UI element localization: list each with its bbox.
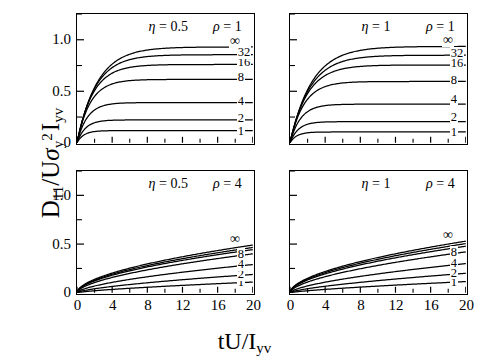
panel-top-left-curve-label-2: 2 [237,112,245,125]
panel-top-right-curve-label-inf: ∞ [442,33,454,47]
panel-bottom-left-curves [77,245,253,293]
panel-top-right-curves [290,46,466,142]
panel-bottom-right-xtick-label-1: 4 [314,298,338,313]
panel-top-right: η = 1ρ = 112481632∞ [289,13,468,145]
curve-4 [290,104,466,143]
panel-bottom-left-xtick-label-2: 8 [136,298,160,313]
panel-bottom-left-rho-label: ρ = 4 [213,176,242,192]
panel-bottom-left-xtick-label-0: 0 [66,298,90,313]
curve-32 [290,244,466,293]
panel-bottom-left: η = 0.5ρ = 41248∞ [76,170,255,295]
panel-top-right-eta-label: η = 1 [362,19,391,35]
panel-bottom-right-eta-label: η = 1 [362,176,391,192]
panel-top-left-ytick-label-0: 0 [35,135,71,150]
panel-top-left-curve-label-4: 4 [237,95,245,108]
panel-top-left-curve-label-8: 8 [237,71,245,84]
panel-bottom-right-xtick-label-5: 20 [454,298,478,313]
panel-top-right-curve-label-8: 8 [450,74,458,87]
curve-8 [290,81,466,142]
panel-bottom-left-xtick-label-1: 4 [101,298,125,313]
panel-bottom-right-xtick-label-4: 16 [419,298,443,313]
curve-inf [77,47,253,143]
panel-bottom-right-xtick-label-2: 8 [349,298,373,313]
panel-bottom-right-curves [290,241,466,293]
panel-bottom-left-eta-label: η = 0.5 [149,176,188,192]
panel-bottom-left-xtick-label-3: 12 [171,298,195,313]
y-axis-label: D11/Uσy2 Iyv [37,33,67,293]
panel-bottom-left-ytick-label-1: 0.5 [35,237,71,252]
curve-8 [77,79,253,142]
panel-top-right-curve-label-4: 4 [450,93,458,106]
panel-bottom-left-curve-label-inf: ∞ [229,232,241,246]
panel-bottom-right: η = 1ρ = 41248∞ [289,170,468,295]
panel-bottom-right-curve-label-inf: ∞ [442,228,454,242]
panel-top-right-curve-label-1: 1 [450,126,458,139]
panel-top-right-curve-label-32: 32 [450,47,465,60]
panel-top-left-curve-label-1: 1 [237,125,245,138]
panel-bottom-left-xtick-label-5: 20 [241,298,265,313]
panel-top-right-curve-label-2: 2 [450,111,458,124]
figure-root: D11/Uσy2 Iyv tU/Iyv η = 0.5ρ = 112481632… [0,0,489,361]
panel-bottom-right-xtick-label-0: 0 [279,298,303,313]
panel-top-left-curve-label-32: 32 [237,46,252,59]
panel-top-left: η = 0.5ρ = 112481632∞ [76,13,255,145]
curve-inf [77,245,253,293]
panel-bottom-right-curve-label-8: 8 [450,246,458,259]
panel-bottom-left-xtick-label-4: 16 [206,298,230,313]
x-axis-label: tU/Iyv [0,328,489,357]
panel-top-left-ytick-label-1: 0.5 [35,84,71,99]
curve-32 [77,55,253,143]
panel-bottom-right-xtick-label-3: 12 [384,298,408,313]
panel-bottom-left-curve-label-8: 8 [237,248,245,261]
panel-top-left-ytick-label-2: 1.0 [35,32,71,47]
curve-4 [77,103,253,143]
x-axis-label-text: tU/Iyv [218,328,272,354]
curve-4 [290,264,466,293]
panel-bottom-left-ytick-label-2: 1.0 [35,188,71,203]
panel-top-left-eta-label: η = 0.5 [149,19,188,35]
panel-bottom-right-curve-label-4: 4 [450,257,458,270]
panel-bottom-right-rho-label: ρ = 4 [426,176,455,192]
curve-4 [77,265,253,293]
curve-32 [290,55,466,143]
curve-inf [290,46,466,142]
panel-top-left-curves [77,47,253,143]
panel-top-left-curve-label-inf: ∞ [229,34,241,48]
